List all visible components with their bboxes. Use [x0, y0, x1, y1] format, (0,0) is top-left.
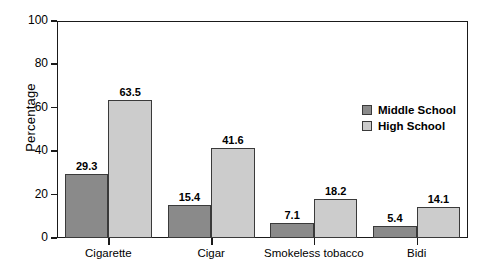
- bar-cigar-middle-school: [168, 205, 212, 238]
- bar-value-label: 5.4: [387, 212, 402, 224]
- x-tick-mark: [417, 238, 419, 245]
- y-tick-label: 100: [28, 13, 48, 27]
- legend-swatch-middle-school: [362, 105, 372, 115]
- bar-smokeless-tobacco-high-school: [314, 199, 358, 238]
- y-tick-label: 60: [35, 100, 48, 114]
- bar-cigar-high-school: [211, 148, 255, 238]
- bar-bidi-high-school: [417, 207, 461, 238]
- y-tick-mark: [51, 194, 57, 196]
- y-tick-mark: [51, 63, 57, 65]
- x-tick-mark: [314, 238, 316, 245]
- legend-label-high-school: High School: [378, 120, 445, 132]
- bar-value-label: 18.2: [325, 185, 346, 197]
- y-tick-label: 80: [35, 56, 48, 70]
- bar-value-label: 41.6: [222, 134, 243, 146]
- bar-value-label: 7.1: [284, 209, 299, 221]
- bar-value-label: 15.4: [179, 191, 200, 203]
- bar-smokeless-tobacco-middle-school: [270, 223, 314, 238]
- legend-swatch-high-school: [362, 121, 372, 131]
- bar-value-label: 63.5: [119, 86, 140, 98]
- bar-cigarette-high-school: [108, 100, 152, 238]
- x-tick-label: Smokeless tobacco: [264, 247, 364, 259]
- x-tick-label: Cigar: [197, 247, 224, 259]
- legend-item-high-school: High School: [362, 119, 456, 133]
- y-tick-label: 20: [35, 187, 48, 201]
- y-tick-mark: [51, 237, 57, 239]
- y-tick-label: 40: [35, 143, 48, 157]
- bar-chart: Percentage 020406080100 CigaretteCigarSm…: [0, 0, 483, 266]
- x-tick-mark: [108, 238, 110, 245]
- y-tick-mark: [51, 150, 57, 152]
- legend-item-middle-school: Middle School: [362, 103, 456, 117]
- x-tick-mark: [211, 238, 213, 245]
- legend: Middle School High School: [362, 103, 456, 135]
- y-tick-label: 0: [41, 230, 48, 244]
- x-tick-label: Cigarette: [85, 247, 132, 259]
- legend-label-middle-school: Middle School: [378, 104, 456, 116]
- x-tick-label: Bidi: [407, 247, 426, 259]
- bar-cigarette-middle-school: [65, 174, 109, 238]
- y-tick-mark: [51, 107, 57, 109]
- bar-bidi-middle-school: [373, 226, 417, 238]
- bar-value-label: 14.1: [428, 193, 449, 205]
- bar-value-label: 29.3: [76, 160, 97, 172]
- y-tick-mark: [51, 20, 57, 22]
